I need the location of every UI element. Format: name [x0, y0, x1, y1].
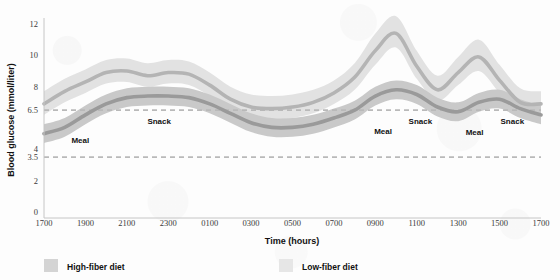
x-tick-label: 1500 [491, 218, 508, 228]
legend-swatch-high-fiber [44, 259, 58, 272]
x-tick-label: 0900 [367, 218, 384, 228]
y-tick-label: 0 [34, 207, 38, 217]
y-tick-label: 2 [34, 176, 38, 186]
x-tick-label: 2100 [118, 218, 135, 228]
legend-label-low-fiber: Low-fiber diet [302, 262, 358, 272]
blood-glucose-chart: 023.546.58101217001900210023000100030005… [0, 0, 560, 280]
x-tick-label: 0700 [325, 218, 342, 228]
y-tick-label: 10 [30, 50, 39, 60]
x-tick-label: 0500 [284, 218, 301, 228]
series-bands [44, 16, 541, 143]
x-tick-label: 1700 [533, 218, 550, 228]
y-axis-title: Blood glucose (mmol/liter) [6, 63, 16, 177]
annotation-meal: Meal [374, 127, 392, 136]
y-tick-label: 12 [30, 19, 39, 29]
y-tick-label: 6.5 [27, 105, 38, 115]
annotation-snack: Snack [147, 117, 171, 126]
annotation-snack: Snack [501, 117, 525, 126]
annotation-snack: Snack [409, 117, 433, 126]
x-tick-label: 2300 [160, 218, 177, 228]
x-axis-title: Time (hours) [265, 236, 319, 246]
annotation-meal: Meal [71, 136, 89, 145]
chart-canvas: 023.546.58101217001900210023000100030005… [0, 0, 560, 280]
x-tick-label: 1700 [36, 218, 53, 228]
y-tick-label: 8 [34, 82, 38, 92]
x-tick-label: 1300 [450, 218, 467, 228]
annotation-meal: Meal [466, 128, 484, 137]
x-tick-label: 0300 [243, 218, 260, 228]
x-tick-label: 1100 [408, 218, 425, 228]
legend-swatch-low-fiber [279, 259, 293, 272]
x-tick-label: 1900 [77, 218, 94, 228]
x-tick-label: 0100 [201, 218, 218, 228]
legend-label-high-fiber: High-fiber diet [67, 262, 125, 272]
y-tick-label: 4 [34, 144, 39, 154]
legend: High-fiber diet Low-fiber diet [44, 259, 358, 272]
